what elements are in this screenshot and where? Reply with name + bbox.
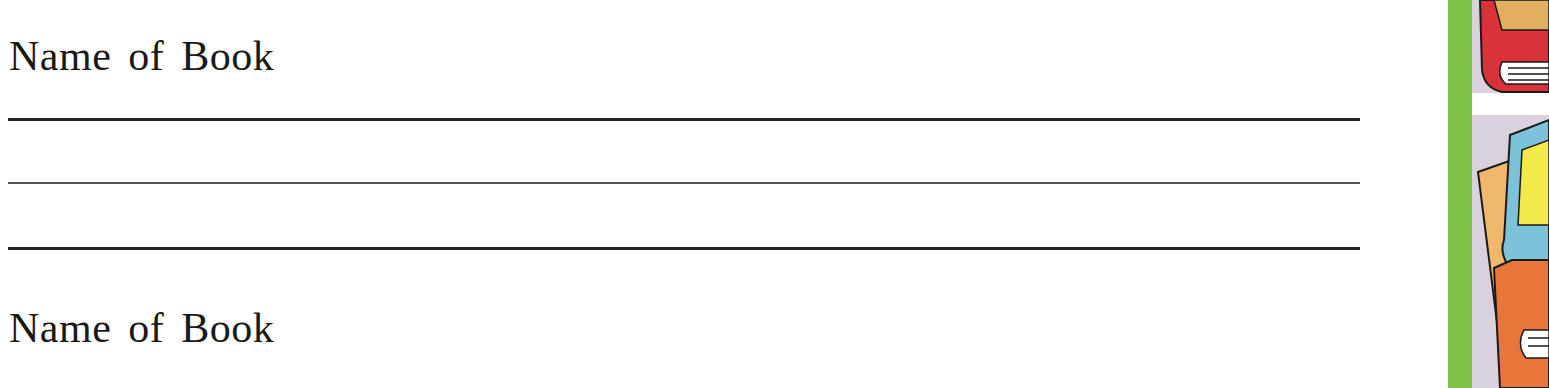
writing-line-1[interactable] — [8, 118, 1360, 121]
books-illustration — [1472, 0, 1549, 388]
book-name-label-2: Name of Book — [9, 304, 274, 352]
writing-line-3[interactable] — [8, 247, 1360, 250]
green-border — [1448, 0, 1472, 388]
writing-line-2[interactable] — [8, 182, 1360, 184]
stack-of-books-icon — [1472, 0, 1549, 388]
book-name-label-1: Name of Book — [9, 32, 274, 80]
